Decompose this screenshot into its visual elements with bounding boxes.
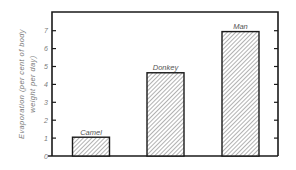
y-axis-label-line-1: Evaporation (per cent of body <box>17 28 26 139</box>
y-tick-label: 5 <box>44 63 48 70</box>
bar-label-man: Man <box>233 22 248 31</box>
y-tick-label: 0 <box>44 153 48 160</box>
y-tick-label: 2 <box>43 117 48 124</box>
y-axis-label-line-2: weight per day) <box>28 55 37 112</box>
y-tick-label: 6 <box>44 45 48 52</box>
bar-donkey <box>147 73 184 156</box>
y-tick-label: 3 <box>44 99 48 106</box>
y-tick-label: 4 <box>44 81 48 88</box>
y-axis-label: Evaporation (per cent of body weight per… <box>17 28 37 139</box>
y-tick-label: 1 <box>44 135 48 142</box>
bar-man <box>222 32 259 156</box>
y-tick-label: 7 <box>44 27 49 34</box>
bar-label-camel: Camel <box>80 128 102 137</box>
bar-label-donkey: Donkey <box>153 63 180 72</box>
bar-chart: 01234567 CamelDonkeyMan Evaporation (per… <box>0 0 296 170</box>
bar-camel <box>73 137 110 156</box>
y-axis-ticks: 01234567 <box>43 27 56 159</box>
bars: CamelDonkeyMan <box>73 22 260 156</box>
